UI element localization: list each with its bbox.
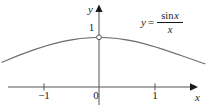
equation-lhs: y (141, 17, 146, 28)
graph-figure: y x 1 −1 0 1 y = sin x x (0, 0, 207, 110)
y-axis-label: y (88, 4, 93, 15)
sine-function-name: sin (161, 10, 173, 21)
y-axis-arrow-icon (95, 5, 102, 13)
equation-fraction: sin x x (157, 10, 183, 35)
open-point-marker (97, 35, 102, 40)
x-tick-label-neg1: −1 (37, 90, 51, 101)
sinx-over-x-curve (2, 37, 205, 64)
x-tick-label-pos1: 1 (150, 90, 160, 101)
equation-equals-sign: = (148, 17, 154, 28)
curve-equation-label: y = sin x x (141, 10, 183, 35)
fraction-denominator: x (166, 23, 175, 35)
x-axis-arrow-icon (190, 83, 198, 90)
origin-label: 0 (91, 90, 101, 101)
y-tick-label-1: 1 (87, 22, 96, 33)
numerator-variable: x (174, 10, 179, 21)
fraction-numerator: sin x (159, 10, 181, 22)
x-axis-label: x (195, 92, 200, 103)
